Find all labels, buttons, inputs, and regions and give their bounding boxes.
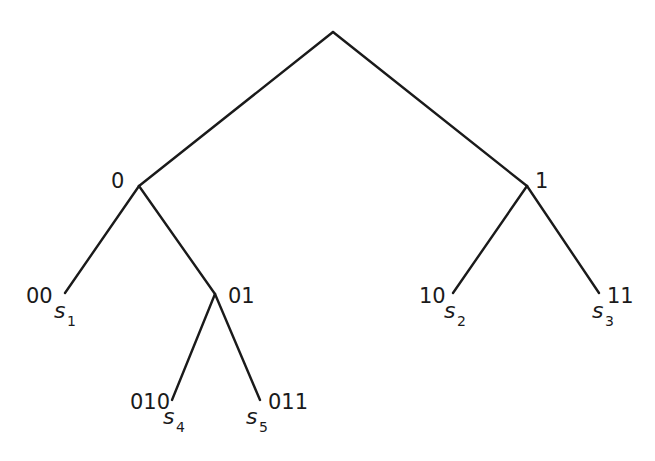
symbol-s2-index: 2 [457, 313, 466, 329]
symbol-s3-base: s [592, 298, 603, 323]
node-label-00: 00 [26, 284, 53, 308]
symbol-s5: s 5 [246, 404, 268, 435]
node-label-011: 011 [268, 390, 308, 414]
symbol-s4-index: 4 [176, 419, 185, 435]
code-tree-diagram: 0 1 00 01 10 11 010 011 s 1 s 2 s 3 s 4 … [0, 0, 655, 461]
symbol-s1-index: 1 [67, 313, 76, 329]
tree-edges [65, 32, 599, 400]
symbol-s2-base: s [444, 298, 455, 323]
edge-0-01 [139, 186, 215, 294]
edge-1-10 [453, 186, 527, 293]
symbol-s4: s 4 [163, 404, 185, 435]
edge-0-00 [65, 186, 139, 293]
symbol-s1-base: s [54, 298, 65, 323]
edge-01-010 [172, 294, 215, 400]
symbol-s5-base: s [246, 404, 257, 429]
node-labels: 0 1 00 01 10 11 010 011 [26, 169, 634, 414]
symbol-s3-index: 3 [605, 313, 614, 329]
symbol-s2: s 2 [444, 298, 466, 329]
edge-01-011 [215, 294, 260, 400]
node-label-11: 11 [607, 284, 634, 308]
edge-1-11 [527, 186, 599, 293]
node-label-0: 0 [111, 169, 124, 193]
node-label-01: 01 [228, 284, 255, 308]
symbol-s4-base: s [163, 404, 174, 429]
symbol-labels: s 1 s 2 s 3 s 4 s 5 [54, 298, 614, 435]
symbol-s1: s 1 [54, 298, 76, 329]
edge-root-1 [333, 32, 527, 186]
node-label-1: 1 [535, 169, 548, 193]
edge-root-0 [139, 32, 333, 186]
node-label-10: 10 [419, 284, 446, 308]
symbol-s5-index: 5 [259, 419, 268, 435]
